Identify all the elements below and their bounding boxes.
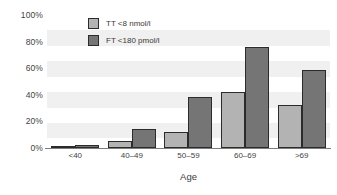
bar-tt	[278, 105, 302, 148]
x-axis-labels: <4040–4950–5960–69>69	[47, 151, 330, 160]
bar-ft	[302, 70, 326, 148]
bar-ft	[245, 47, 269, 148]
x-tick-label: >69	[273, 151, 330, 160]
x-tick-label: <40	[47, 151, 104, 160]
y-tick-label: 100%	[0, 10, 43, 20]
y-tick-label: 20%	[0, 116, 43, 126]
x-axis-line	[45, 148, 331, 149]
bar-chart: 100% 80% 60% 40% 20% 0% <4040–4950–5960–…	[0, 0, 337, 195]
y-tick-label: 60%	[0, 63, 43, 73]
y-axis-labels: 100% 80% 60% 40% 20% 0%	[0, 0, 43, 195]
y-tick-label: 40%	[0, 90, 43, 100]
bar-group	[160, 15, 217, 148]
bar-ft	[132, 129, 156, 148]
bar-group	[273, 15, 330, 148]
legend-swatch-icon-tt	[88, 18, 99, 29]
legend-item-ft: FT <180 pmol/l	[88, 35, 159, 46]
y-tick-label: 0%	[0, 143, 43, 153]
legend-label-ft: FT <180 pmol/l	[106, 36, 159, 45]
chart-legend: TT <8 nmol/l FT <180 pmol/l	[88, 18, 159, 52]
legend-label-tt: TT <8 nmol/l	[106, 19, 151, 28]
x-axis-title: Age	[47, 171, 330, 182]
bar-group	[217, 15, 274, 148]
bar-tt	[108, 141, 132, 148]
x-tick-label: 60–69	[217, 151, 274, 160]
x-tick-label: 50–59	[160, 151, 217, 160]
legend-item-tt: TT <8 nmol/l	[88, 18, 159, 29]
y-tick-label: 80%	[0, 37, 43, 47]
x-tick-label: 40–49	[104, 151, 161, 160]
bar-tt	[221, 92, 245, 148]
bar-ft	[188, 97, 212, 148]
legend-swatch-icon-ft	[88, 35, 99, 46]
bar-tt	[164, 132, 188, 148]
